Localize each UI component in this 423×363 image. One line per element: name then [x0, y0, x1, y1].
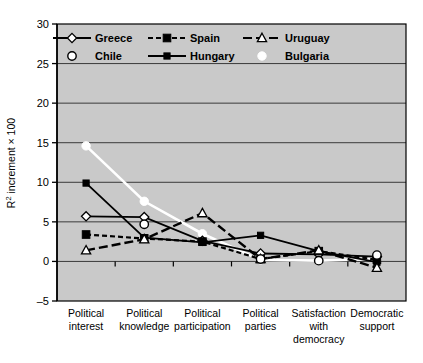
y-tick-label: 15 — [37, 137, 49, 149]
x-category-label-line: participation — [174, 320, 231, 332]
legend-marker — [164, 53, 170, 59]
x-category-label-line: Political — [184, 307, 220, 319]
legend-label: Greece — [95, 32, 132, 44]
data-point — [373, 251, 381, 259]
data-point — [256, 255, 264, 263]
legend-label: Hungary — [190, 50, 236, 62]
data-point — [82, 231, 90, 239]
x-category-label: Democraticsupport — [350, 307, 403, 332]
legend-marker — [68, 52, 76, 60]
legend-label: Bulgaria — [285, 50, 330, 62]
svg-text:R2 increment × 100: R2 increment × 100 — [4, 118, 17, 208]
x-category-label: Satisfactionwithdemocracy — [292, 307, 346, 345]
chart-figure: –5051015202530 R2 increment × 100 Greece… — [0, 0, 423, 363]
x-category-label-line: interest — [69, 320, 104, 332]
x-category-label-line: Political — [68, 307, 104, 319]
data-point — [140, 197, 148, 205]
x-category-label-line: knowledge — [119, 320, 169, 332]
data-point — [315, 256, 323, 264]
x-category-label-line: democracy — [293, 333, 345, 345]
data-point — [257, 232, 263, 238]
y-tick-label: 10 — [37, 176, 49, 188]
legend-label: Uruguay — [285, 32, 331, 44]
line-chart: –5051015202530 R2 increment × 100 Greece… — [0, 0, 423, 363]
x-category-label: Politicalknowledge — [119, 307, 169, 332]
data-point — [140, 220, 148, 228]
x-category-label-line: Political — [126, 307, 162, 319]
y-axis-label-rest: increment × 100 — [5, 118, 17, 197]
data-point — [83, 180, 89, 186]
x-category-label-line: with — [308, 320, 328, 332]
legend-label: Spain — [190, 32, 220, 44]
x-category-label-line: Satisfaction — [292, 307, 346, 319]
y-tick-label: 30 — [37, 18, 49, 30]
data-point — [82, 142, 90, 150]
x-category-label: Politicalinterest — [68, 307, 104, 332]
x-category-label: Politicalparticipation — [174, 307, 231, 332]
data-point — [199, 238, 207, 246]
y-tick-label: 0 — [43, 255, 49, 267]
x-category-label: Politicalparties — [242, 307, 278, 332]
x-category-label-line: Democratic — [350, 307, 403, 319]
x-axis-category-labels: PoliticalinterestPoliticalknowledgePolit… — [68, 307, 403, 345]
x-category-label-line: support — [359, 320, 394, 332]
legend-marker — [258, 52, 266, 60]
x-category-label-line: Political — [242, 307, 278, 319]
y-axis-ticks: –5051015202530 — [37, 18, 57, 307]
y-tick-label: 25 — [37, 58, 49, 70]
y-tick-label: 5 — [43, 216, 49, 228]
legend-marker — [163, 34, 171, 42]
legend-label: Chile — [95, 50, 122, 62]
x-category-label-line: parties — [245, 320, 277, 332]
y-tick-label: –5 — [37, 295, 49, 307]
y-axis-label: R2 increment × 100 — [4, 118, 17, 208]
y-tick-label: 20 — [37, 97, 49, 109]
